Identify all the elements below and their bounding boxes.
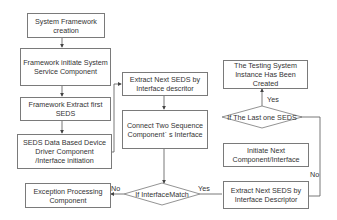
node-label: Exception Processing Component bbox=[28, 187, 108, 205]
node-label: Connect Two Sequence Componentˊ s Interf… bbox=[125, 121, 205, 139]
edge-label-yes: Yes bbox=[198, 184, 210, 193]
node-connect-two-sequence: Connect Two Sequence Componentˊ s Interf… bbox=[122, 110, 208, 149]
decision-if-interface-match: If InterfaceMatch bbox=[124, 190, 200, 199]
node-label: Extract Next SEDS by Interface Descripto… bbox=[226, 186, 306, 204]
node-label: Extract Next SEDS by Interface descritor bbox=[125, 75, 205, 93]
node-label: The Testing System Instance Has Been Cre… bbox=[226, 61, 305, 88]
node-framework-extract-first-seds: Framework Extract first SEDS bbox=[20, 97, 111, 121]
decision-if-last-seds: If The Last one SEDS bbox=[222, 113, 302, 122]
node-label: System Framework creation bbox=[30, 17, 102, 35]
node-label: Framework initiate System Service Compon… bbox=[23, 58, 108, 76]
node-exception-processing: Exception Processing Component bbox=[25, 183, 111, 208]
node-extract-next-seds-descriptor: Extract Next SEDS by Interface Descripto… bbox=[223, 181, 309, 209]
node-framework-initiate-service: Framework initiate System Service Compon… bbox=[20, 48, 111, 86]
node-label: SEDS Data Based Device Driver Component … bbox=[20, 138, 109, 165]
edge-label-yes: Yes bbox=[267, 95, 279, 104]
node-initiate-next-component: Initiate Next Component/Interface bbox=[223, 143, 309, 167]
node-seds-device-driver-init: SEDS Data Based Device Driver Component … bbox=[17, 134, 112, 169]
node-system-framework-creation: System Framework creation bbox=[27, 13, 105, 38]
edge-label-no: No bbox=[111, 184, 120, 193]
node-testing-system-created: The Testing System Instance Has Been Cre… bbox=[223, 60, 308, 89]
node-label: Framework Extract first SEDS bbox=[23, 100, 108, 118]
edge-label-no: No bbox=[310, 170, 319, 179]
node-label: Initiate Next Component/Interface bbox=[226, 146, 306, 164]
node-extract-next-seds-descritor: Extract Next SEDS by Interface descritor bbox=[122, 72, 208, 96]
